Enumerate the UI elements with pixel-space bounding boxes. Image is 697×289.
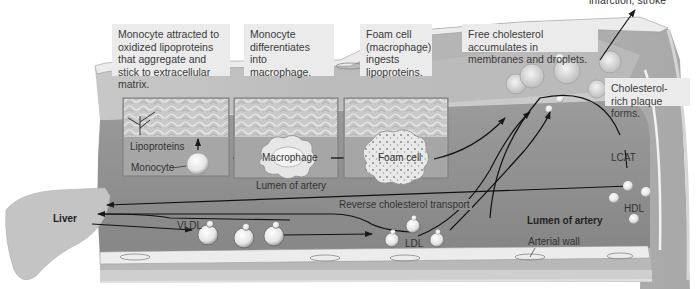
monocyte-cell	[187, 153, 209, 175]
label-reverse-cholesterol-transport: Reverse cholesterol transport	[337, 199, 472, 210]
label-ldl: LDL	[405, 238, 423, 249]
label-infarction-stroke: infarction, stroke	[589, 0, 666, 6]
label-arterial-wall: Arterial wall	[528, 236, 580, 247]
liver	[6, 188, 110, 280]
label-lipoproteins: Lipoproteins	[130, 141, 184, 152]
label-hdl: HDL	[624, 203, 644, 214]
label-vldl: VLDL	[177, 220, 202, 231]
caption-monocyte-differentiates: Monocyte differentiates into macrophage.	[244, 24, 334, 76]
caption-plaque-forms: Cholesterol-rich plaque forms.	[605, 78, 690, 106]
caption-foam-cell: Foam cell (macrophage) ingests lipoprote…	[360, 24, 432, 76]
label-lcat: LCAT	[611, 152, 636, 163]
atherosclerosis-diagram: Monocyte attracted to oxidized lipoprote…	[0, 0, 697, 289]
inset-panel-macrophage	[234, 98, 338, 179]
label-liver: Liver	[53, 213, 77, 224]
label-foam-cell: Foam cell	[378, 152, 421, 163]
caption-monocyte-attracted: Monocyte attracted to oxidized lipoprote…	[112, 24, 230, 76]
label-macrophage: Macrophage	[262, 152, 318, 163]
inset-panel-foam-cell	[344, 98, 448, 185]
label-lumen-inset: Lumen of artery	[256, 180, 326, 191]
caption-free-cholesterol: Free cholesterol accumulates in membrane…	[462, 24, 598, 52]
label-lumen-of-artery: Lumen of artery	[527, 215, 603, 226]
label-monocyte: Monocyte	[131, 162, 174, 173]
